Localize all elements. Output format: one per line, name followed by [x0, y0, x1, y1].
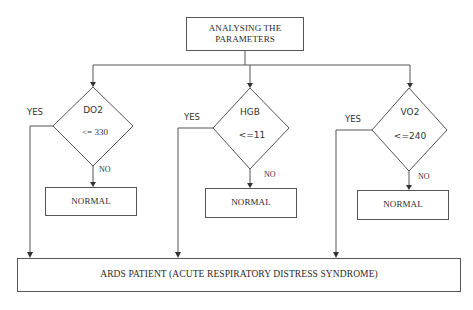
- decision-diamond-hgb: [213, 88, 289, 169]
- start-box-line1: ANALYSING THE: [209, 23, 281, 34]
- decision-do2-param: DO2: [83, 105, 103, 115]
- outcome-normal-vo2: NORMAL: [357, 190, 449, 220]
- outcome-normal-vo2-label: NORMAL: [383, 199, 423, 210]
- outcome-normal-do2: NORMAL: [45, 187, 137, 216]
- result-box-ards-patient: ARDS PATIENT (ACUTE RESPIRATORY DISTRESS…: [17, 258, 461, 292]
- outcome-normal-hgb-label: NORMAL: [231, 197, 271, 208]
- decision-vo2-yes-label: YES: [345, 114, 361, 124]
- decision-do2-no-label: NO: [99, 165, 111, 174]
- decision-diamond-vo2: [372, 88, 447, 171]
- decision-hgb-param: HGB: [240, 107, 260, 117]
- decision-do2-yes-label: YES: [27, 107, 43, 117]
- outcome-normal-hgb: NORMAL: [205, 188, 297, 218]
- start-box-line2: PARAMETERS: [215, 34, 275, 45]
- outcome-normal-do2-label: NORMAL: [71, 196, 111, 207]
- result-box-label: ARDS PATIENT (ACUTE RESPIRATORY DISTRESS…: [100, 269, 378, 281]
- decision-hgb-no-label: NO: [264, 170, 276, 179]
- decision-vo2-condition: <=240: [394, 131, 426, 141]
- decision-hgb-condition: <=11: [239, 130, 266, 140]
- decision-hgb-yes-label: YES: [184, 112, 200, 122]
- decision-vo2-param: VO2: [401, 107, 420, 117]
- decision-vo2-no-label: NO: [418, 172, 430, 181]
- decision-do2-condition: <= 330: [82, 127, 108, 137]
- start-box-analysing-parameters: ANALYSING THE PARAMETERS: [186, 17, 304, 51]
